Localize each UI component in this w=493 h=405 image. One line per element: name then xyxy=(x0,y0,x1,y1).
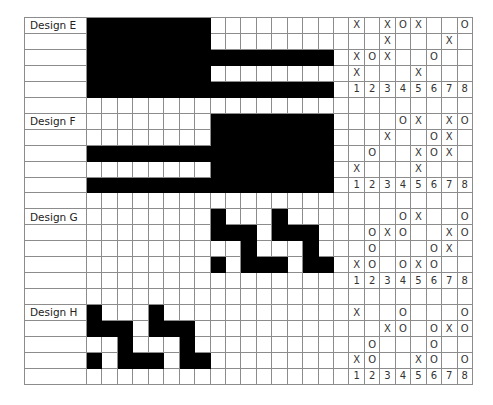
pattern-cell-empty xyxy=(272,321,287,337)
pattern-cell-filled xyxy=(164,178,179,194)
pattern-cell-empty xyxy=(257,321,272,337)
pattern-cell-empty xyxy=(226,241,241,257)
pattern-cell-empty xyxy=(87,225,102,241)
pattern-cell-empty xyxy=(319,337,334,353)
column-number xyxy=(334,178,349,194)
pattern-cell-empty xyxy=(118,257,133,273)
pattern-cell-filled xyxy=(102,178,117,194)
pattern-cell-filled xyxy=(288,162,303,178)
pattern-cell-filled xyxy=(319,114,334,130)
answer-cell xyxy=(380,305,395,321)
answer-cell xyxy=(349,209,364,225)
pattern-cell-empty xyxy=(149,369,164,385)
answer-cell xyxy=(411,337,426,353)
column-number: 2 xyxy=(365,273,380,289)
answer-cell: X xyxy=(380,321,395,337)
spacer-cell xyxy=(180,193,195,209)
spacer-cell xyxy=(133,193,148,209)
answer-cell xyxy=(365,114,380,130)
pattern-cell-empty xyxy=(303,18,318,34)
pattern-cell-empty xyxy=(102,337,117,353)
pattern-cell-filled xyxy=(272,130,287,146)
pattern-cell-empty xyxy=(226,353,241,369)
answer-cell: O xyxy=(427,321,442,337)
pattern-cell-filled xyxy=(257,146,272,162)
answer-cell: O xyxy=(427,130,442,146)
pattern-cell-empty xyxy=(211,305,226,321)
pattern-cell-filled xyxy=(87,178,102,194)
answer-cell xyxy=(427,66,442,82)
spacer-cell xyxy=(411,289,426,305)
label-cell xyxy=(25,82,87,98)
answer-cell: X xyxy=(349,50,364,66)
pattern-cell-filled xyxy=(319,82,334,98)
pattern-cell-empty xyxy=(133,114,148,130)
answer-cell: X xyxy=(349,257,364,273)
answer-cell: O xyxy=(458,114,473,130)
answer-cell xyxy=(411,241,426,257)
pattern-cell-empty xyxy=(241,369,256,385)
answer-cell xyxy=(411,225,426,241)
design-label: Design H xyxy=(25,305,87,321)
answer-cell xyxy=(411,305,426,321)
spacer-cell xyxy=(427,193,442,209)
answer-cell xyxy=(365,130,380,146)
spacer-cell xyxy=(365,98,380,114)
answer-cell xyxy=(458,257,473,273)
spacer-cell xyxy=(288,193,303,209)
pattern-cell-empty xyxy=(272,305,287,321)
column-number: 7 xyxy=(442,82,457,98)
pattern-cell-filled xyxy=(87,34,102,50)
pattern-cell-empty xyxy=(241,66,256,82)
pattern-cell-filled xyxy=(164,146,179,162)
pattern-cell-filled xyxy=(118,321,133,337)
pattern-cell-filled xyxy=(195,353,210,369)
spacer-cell xyxy=(211,193,226,209)
pattern-cell-empty xyxy=(272,18,287,34)
answer-cell: X xyxy=(380,18,395,34)
answer-cell xyxy=(396,146,411,162)
spacer-cell xyxy=(226,98,241,114)
pattern-cell-empty xyxy=(226,209,241,225)
pattern-cell-empty xyxy=(211,353,226,369)
label-cell xyxy=(25,241,87,257)
pattern-cell-filled xyxy=(272,82,287,98)
pattern-cell-empty xyxy=(211,18,226,34)
column-number: 1 xyxy=(349,82,364,98)
pattern-cell-empty xyxy=(180,130,195,146)
pattern-cell-filled xyxy=(211,82,226,98)
pattern-cell-empty xyxy=(257,369,272,385)
pattern-cell-filled xyxy=(87,146,102,162)
pattern-cell-empty xyxy=(241,353,256,369)
pattern-cell-filled xyxy=(303,130,318,146)
pattern-cell-empty xyxy=(118,305,133,321)
pattern-cell-filled xyxy=(149,353,164,369)
pattern-cell-empty xyxy=(87,114,102,130)
pattern-cell-filled xyxy=(257,178,272,194)
column-number: 5 xyxy=(411,82,426,98)
answer-cell xyxy=(380,209,395,225)
spacer-cell xyxy=(349,289,364,305)
pattern-cell-empty xyxy=(226,305,241,321)
pattern-cell-filled xyxy=(195,146,210,162)
spacer-cell xyxy=(303,193,318,209)
label-cell xyxy=(25,66,87,82)
answer-cell: O xyxy=(396,257,411,273)
spacer-cell xyxy=(365,193,380,209)
pattern-cell-empty xyxy=(288,369,303,385)
answer-cell: O xyxy=(427,146,442,162)
answer-cell xyxy=(365,321,380,337)
pattern-cell-empty xyxy=(133,225,148,241)
pattern-cell-filled xyxy=(118,353,133,369)
pattern-cell-filled xyxy=(118,18,133,34)
answer-cell: X xyxy=(349,353,364,369)
column-number xyxy=(334,369,349,385)
column-number: 8 xyxy=(458,178,473,194)
pattern-cell-empty xyxy=(211,337,226,353)
spacer-cell xyxy=(349,98,364,114)
pattern-cell-filled xyxy=(272,257,287,273)
pattern-cell-filled xyxy=(195,18,210,34)
pattern-cell-filled xyxy=(303,50,318,66)
pattern-cell-filled xyxy=(211,225,226,241)
pattern-cell-empty xyxy=(303,273,318,289)
